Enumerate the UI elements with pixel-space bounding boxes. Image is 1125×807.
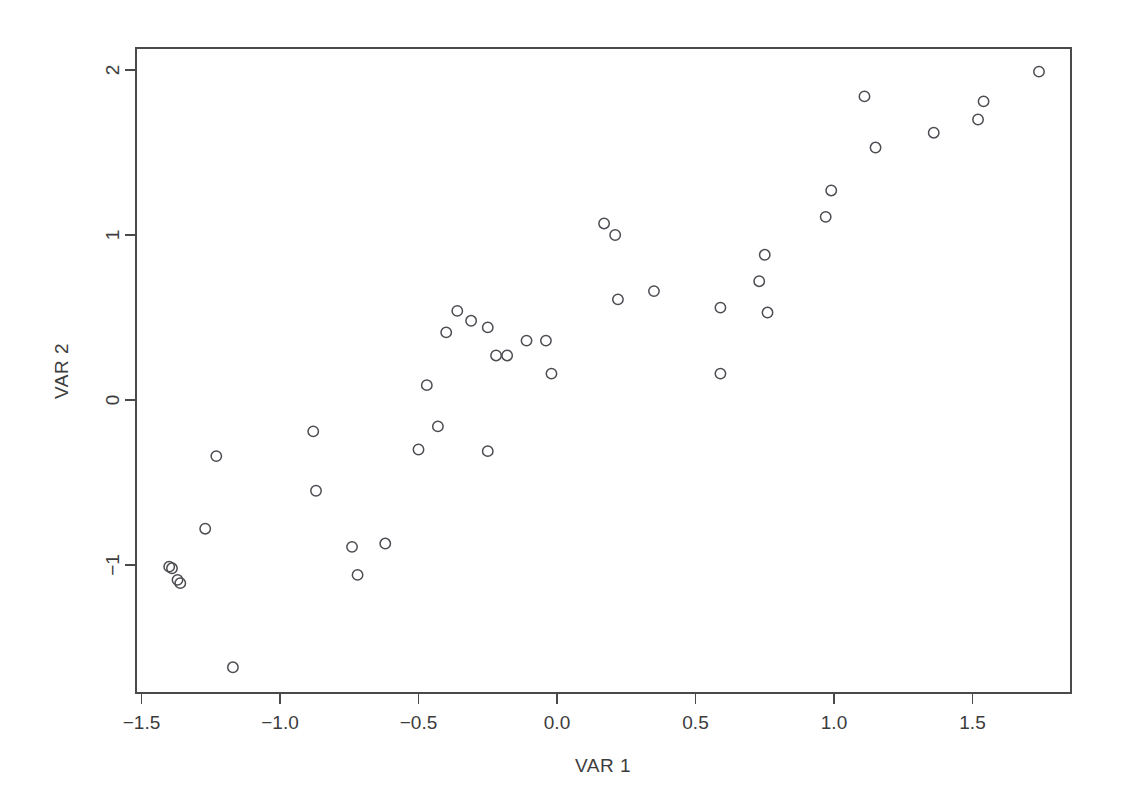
y-tick-label: 1 [102, 230, 123, 241]
x-tick-label: −1.5 [123, 712, 161, 733]
data-point [172, 575, 182, 585]
data-points-group [164, 66, 1044, 672]
x-axis-title: VAR 1 [575, 755, 631, 776]
data-point [491, 350, 501, 360]
data-point [228, 662, 238, 672]
data-point [433, 421, 443, 431]
x-tick-label: 1.0 [821, 712, 847, 733]
data-point [352, 570, 362, 580]
data-point [820, 212, 830, 222]
data-point [483, 446, 493, 456]
data-point [175, 578, 185, 588]
data-point [200, 524, 210, 534]
data-point [859, 91, 869, 101]
x-tick-label: 0.5 [682, 712, 708, 733]
data-point [978, 96, 988, 106]
x-tick-label: −0.5 [400, 712, 438, 733]
x-axis-ticks: −1.5−1.0−0.50.00.51.01.5 [123, 693, 986, 733]
data-point [546, 368, 556, 378]
data-point [610, 230, 620, 240]
data-point [413, 444, 423, 454]
data-point [649, 286, 659, 296]
x-tick-label: 0.0 [544, 712, 570, 733]
data-point [311, 486, 321, 496]
data-point [541, 335, 551, 345]
data-point [380, 538, 390, 548]
scatter-plot-figure: −1.5−1.0−0.50.00.51.01.5 −1012 VAR 1 VAR… [0, 0, 1125, 807]
y-tick-label: 0 [102, 395, 123, 406]
data-point [760, 250, 770, 260]
data-point [211, 451, 221, 461]
data-point [754, 276, 764, 286]
data-point [422, 380, 432, 390]
data-point [308, 426, 318, 436]
data-point [483, 322, 493, 332]
data-point [826, 185, 836, 195]
data-point [870, 142, 880, 152]
y-tick-label: −1 [102, 554, 123, 576]
data-point [167, 563, 177, 573]
data-point [466, 316, 476, 326]
y-axis-title: VAR 2 [51, 343, 72, 399]
data-point [715, 368, 725, 378]
y-axis-ticks: −1012 [102, 65, 137, 576]
data-point [715, 302, 725, 312]
data-point [502, 350, 512, 360]
plot-frame-box [136, 48, 1071, 693]
data-point [599, 218, 609, 228]
y-tick-label: 2 [102, 65, 123, 76]
data-point [452, 306, 462, 316]
plot-canvas: −1.5−1.0−0.50.00.51.01.5 −1012 VAR 1 VAR… [0, 0, 1125, 807]
data-point [613, 294, 623, 304]
data-point [1034, 66, 1044, 76]
data-point [441, 327, 451, 337]
x-tick-label: −1.0 [261, 712, 299, 733]
data-point [521, 335, 531, 345]
data-point [762, 307, 772, 317]
data-point [973, 114, 983, 124]
x-tick-label: 1.5 [959, 712, 985, 733]
data-point [347, 542, 357, 552]
data-point [929, 128, 939, 138]
